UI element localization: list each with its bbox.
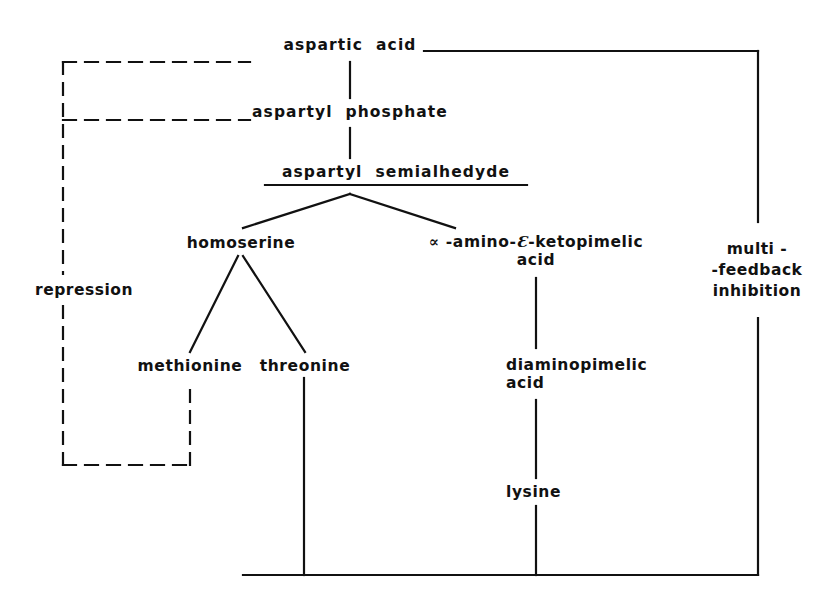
annotation-multi-feedback-inhibition: multi --feedbackinhibition [707,237,808,303]
node-alpha-amino-epsilon-ketopimelic-acid: ∝ -amino-Ɛ-ketopimelicacid [429,233,643,270]
alpha-symbol: ∝ [429,232,440,251]
multi-feedback-line-2: -feedback [712,261,803,279]
node-methionine: methionine [138,357,243,375]
ketopimelic-acid-word: acid [517,251,555,269]
node-homoserine: homoserine [187,234,296,252]
multi-feedback-line-3: inhibition [713,281,802,299]
ketopimelic-mid: -amino- [440,233,517,251]
epsilon-symbol: Ɛ [516,232,528,251]
node-lysine: lysine [506,483,561,501]
annotation-repression: repression [30,278,138,302]
diaminopimelic-line-1: diaminopimelic [506,356,647,374]
diaminopimelic-line-2: acid [506,374,544,392]
pathway-diagram: aspartic acid aspartyl phosphate asparty… [0,0,827,614]
node-aspartyl-phosphate: aspartyl phosphate [252,103,448,121]
edge-homoserine-to-threonine [243,256,305,352]
node-threonine: threonine [260,357,351,375]
multi-feedback-line-1: multi - [727,240,788,258]
node-aspartic-acid: aspartic acid [283,36,416,54]
pathway-connector-lines [0,0,827,614]
edge-homoserine-to-methionine [190,256,238,352]
edge-semialdehyde-to-ketopimelic [350,194,455,228]
edge-semialdehyde-to-homoserine [243,194,350,228]
node-diaminopimelic-acid: diaminopimelicacid [506,356,647,393]
ketopimelic-suffix: -ketopimelic [528,233,643,251]
node-aspartyl-semialdehyde: aspartyl semialhedyde [282,163,510,181]
